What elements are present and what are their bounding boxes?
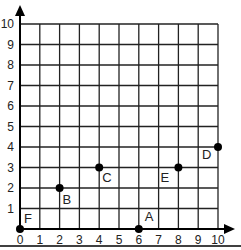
point-marker-icon — [56, 184, 64, 192]
point-marker-icon — [174, 164, 182, 172]
y-tick-labels: 12345678910 — [1, 17, 15, 216]
point-label: B — [63, 192, 72, 207]
x-tick-label: 8 — [175, 233, 182, 247]
point-marker-icon — [214, 143, 222, 151]
x-tick-label: 3 — [76, 233, 83, 247]
x-tick-labels: 012345678910 — [17, 233, 225, 247]
x-tick-label: 0 — [17, 233, 24, 247]
point-label: F — [24, 211, 32, 226]
point-marker-icon — [16, 225, 24, 233]
x-tick-label: 10 — [211, 233, 225, 247]
x-tick-label: 5 — [116, 233, 123, 247]
x-tick-label: 7 — [155, 233, 162, 247]
point-label: A — [145, 209, 154, 224]
point-c: C — [95, 164, 111, 185]
coordinate-grid: 012345678910 12345678910 ABCDEF — [0, 0, 241, 250]
x-tick-label: 9 — [195, 233, 202, 247]
y-tick-label: 7 — [7, 79, 14, 93]
x-tick-label: 4 — [96, 233, 103, 247]
point-e: E — [160, 164, 182, 185]
point-d: D — [202, 143, 222, 162]
axes — [0, 5, 241, 246]
y-axis-arrow-icon — [15, 5, 25, 16]
y-tick-label: 8 — [7, 58, 14, 72]
y-tick-label: 10 — [1, 17, 15, 31]
y-tick-label: 6 — [7, 99, 14, 113]
point-marker-icon — [135, 225, 143, 233]
x-tick-label: 6 — [135, 233, 142, 247]
y-tick-label: 5 — [7, 120, 14, 134]
x-axis-arrow-icon — [224, 224, 235, 234]
grid-lines — [20, 24, 218, 229]
point-label: C — [102, 170, 111, 185]
point-label: E — [160, 170, 169, 185]
point-label: D — [202, 147, 211, 162]
y-tick-label: 2 — [7, 181, 14, 195]
x-tick-label: 2 — [56, 233, 63, 247]
y-tick-label: 3 — [7, 161, 14, 175]
y-tick-label: 4 — [7, 140, 14, 154]
y-tick-label: 1 — [7, 202, 14, 216]
x-tick-label: 1 — [36, 233, 43, 247]
y-tick-label: 9 — [7, 38, 14, 52]
